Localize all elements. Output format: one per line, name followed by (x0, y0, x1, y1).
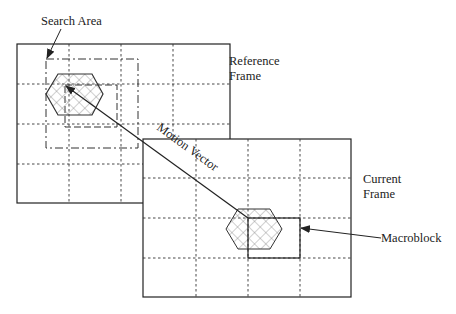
current-frame-label-line1: Current (363, 172, 402, 186)
current-object-hexagon (226, 209, 282, 249)
macroblock-label: Macroblock (381, 231, 442, 245)
reference-object-hexagon (46, 74, 103, 115)
reference-frame-label-line1: Reference (229, 54, 280, 68)
motion-estimation-diagram: Search Area Reference Frame Current Fram… (0, 0, 456, 314)
reference-frame-label-line2: Frame (229, 69, 261, 83)
current-frame-label-line2: Frame (363, 187, 395, 201)
search-area-label: Search Area (41, 14, 102, 28)
